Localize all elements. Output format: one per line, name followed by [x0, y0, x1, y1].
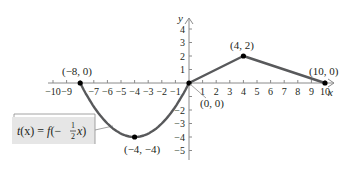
- data-point: [132, 134, 137, 139]
- x-tick-label: −7: [88, 86, 99, 97]
- point-label-10-0: (10, 0): [309, 65, 339, 78]
- x-tick-label: 8: [295, 86, 300, 97]
- fraction-denominator: 2: [71, 132, 75, 141]
- point-label-4-2: (4, 2): [230, 39, 254, 52]
- x-tick-label: −4: [129, 86, 140, 97]
- y-tick-label: −4: [174, 132, 185, 143]
- data-point: [78, 80, 83, 85]
- y-tick-label: 4: [180, 24, 185, 35]
- x-tick-label: −2: [156, 86, 167, 97]
- x-tick-label: 5: [255, 86, 260, 97]
- y-tick-label: 1: [180, 64, 185, 75]
- x-tick-label: −1: [170, 86, 181, 97]
- svg-text:x): x): [76, 124, 86, 138]
- point-label-neg8-0: (−8, 0): [62, 65, 92, 78]
- x-tick-label: 7: [282, 86, 287, 97]
- y-tick-label: 3: [180, 37, 185, 48]
- point-label-0-0: (0, 0): [200, 97, 224, 110]
- x-tick-label: −5: [116, 86, 127, 97]
- x-tick-label: 9: [309, 86, 314, 97]
- point-label-neg4-neg4: (−4, −4): [124, 143, 161, 156]
- y-tick-label: −5: [174, 145, 185, 156]
- x-tick-label: 4: [241, 86, 246, 97]
- x-tick-label: −3: [143, 86, 154, 97]
- x-tick-label: −9: [61, 86, 72, 97]
- fraction-numerator: 1: [71, 121, 75, 130]
- data-point: [322, 80, 327, 85]
- function-graph: −10−9−7−6−5−4−3−2−112345678910 −5−4−3−21…: [0, 0, 354, 176]
- function-label-box: t(x) = f(− 1 2 x): [12, 114, 113, 144]
- y-tick-label: 2: [180, 51, 185, 62]
- x-tick-label: 6: [268, 86, 273, 97]
- x-tick-label: −10: [45, 86, 61, 97]
- x-tick-label: 3: [227, 86, 232, 97]
- svg-text:t(x) = f(−: t(x) = f(−: [17, 124, 61, 138]
- data-point: [241, 53, 246, 58]
- y-axis-label: y: [177, 12, 183, 24]
- x-axis-label: x: [327, 86, 333, 98]
- x-tick-label: 2: [214, 86, 219, 97]
- x-tick-label: −6: [102, 86, 113, 97]
- y-tick-label: −3: [174, 118, 185, 129]
